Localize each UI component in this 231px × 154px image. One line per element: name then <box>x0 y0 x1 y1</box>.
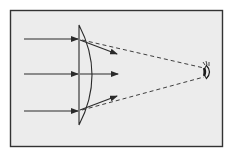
lens-diagram <box>0 0 231 154</box>
diagram-canvas: Diverging lens with eye viewing virtual … <box>0 0 231 154</box>
diagram-frame <box>11 11 223 147</box>
